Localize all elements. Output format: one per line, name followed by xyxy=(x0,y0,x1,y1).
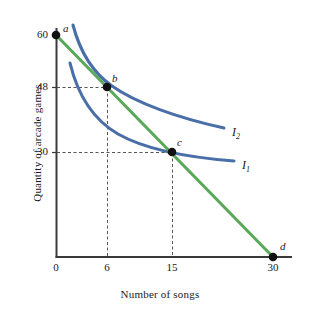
x-tick-label-0: 0 xyxy=(43,261,69,273)
data-point-a xyxy=(52,31,61,40)
y-axis-title: Quantity of arcade games xyxy=(31,33,43,253)
curve-label-i2-subscript: 2 xyxy=(236,132,240,141)
x-tick-label-15: 15 xyxy=(159,261,185,273)
budget-line xyxy=(56,35,273,257)
point-label-b: b xyxy=(112,72,118,84)
curve-label-i2: I2 xyxy=(232,125,240,141)
point-label-c: c xyxy=(177,136,182,148)
data-point-d xyxy=(269,253,278,262)
x-axis-title: Number of songs xyxy=(0,288,320,300)
point-label-a: a xyxy=(63,22,69,34)
data-point-b xyxy=(103,83,112,92)
indifference-curve-i1 xyxy=(70,63,234,161)
indifference-curve-chart: 60 48 30 0 6 15 30 a b c d I2 I1 Number … xyxy=(0,0,320,311)
curve-label-i1: I1 xyxy=(242,158,250,174)
x-tick-label-30: 30 xyxy=(260,261,286,273)
x-tick-label-6: 6 xyxy=(94,261,120,273)
point-label-d: d xyxy=(280,240,286,252)
dashed-guides xyxy=(57,88,173,257)
data-point-c xyxy=(168,148,177,157)
curve-label-i1-subscript: 1 xyxy=(246,165,250,174)
